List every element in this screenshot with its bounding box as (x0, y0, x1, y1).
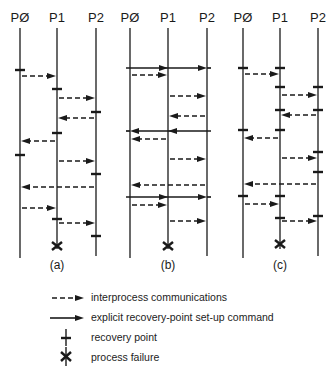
arrowhead-icon (270, 71, 279, 77)
panel-label: (c) (273, 258, 287, 272)
arrowhead-icon (158, 202, 167, 208)
arrowhead-icon (21, 138, 30, 144)
process-label-p1: P1 (49, 10, 65, 25)
arrowhead-icon (130, 128, 139, 134)
process-label-p1: P1 (272, 10, 288, 25)
process-label-p2: P2 (88, 10, 104, 25)
arrowhead-icon (86, 220, 95, 226)
process-label-p2: P2 (310, 10, 326, 25)
arrowhead-icon (21, 184, 30, 190)
process-label-p0: PØ (234, 10, 253, 25)
process-failure-icon (61, 347, 71, 366)
arrowhead-icon (169, 113, 178, 119)
arrowhead-icon (197, 156, 206, 162)
arrowhead-icon (244, 181, 253, 187)
arrowhead-icon (244, 135, 253, 141)
arrowhead-icon (131, 182, 140, 188)
panel-b: PØP1P2(b) (121, 10, 215, 272)
arrowhead-icon (158, 72, 167, 78)
arrowhead-icon (198, 65, 207, 71)
arrowhead-icon (86, 158, 95, 164)
arrowhead-icon (270, 201, 279, 207)
arrowhead-icon (198, 194, 207, 200)
arrowhead-icon (197, 218, 206, 224)
arrowhead-icon (159, 65, 168, 71)
process-label-p0: PØ (121, 10, 140, 25)
arrowhead-icon (159, 194, 168, 200)
arrowhead-icon (168, 128, 177, 134)
arrowhead-icon (197, 93, 206, 99)
arrowhead-icon (47, 205, 56, 211)
arrowhead-icon (308, 218, 317, 224)
process-label-p2: P2 (199, 10, 215, 25)
arrowhead-icon (131, 136, 140, 142)
arrowhead-icon (308, 92, 317, 98)
process-label-p0: PØ (11, 10, 30, 25)
legend-symbols (50, 295, 84, 366)
arrowhead-icon (281, 112, 290, 118)
arrowhead-icon (47, 73, 56, 79)
dashed-arrow-icon (52, 295, 84, 301)
arrowhead-icon (308, 155, 317, 161)
recovery-diagram: PØP1P2(a)PØP1P2(b)PØP1P2(c) (0, 0, 331, 376)
panel-c: PØP1P2(c) (234, 10, 326, 272)
process-label-p1: P1 (160, 10, 176, 25)
solid-arrow-icon (50, 315, 84, 321)
arrowhead-icon (86, 95, 95, 101)
panel-label: (a) (50, 258, 65, 272)
panel-label: (b) (161, 258, 176, 272)
recovery-point-icon (61, 329, 71, 346)
arrowhead-icon (58, 115, 67, 121)
panel-a: PØP1P2(a) (11, 10, 104, 272)
